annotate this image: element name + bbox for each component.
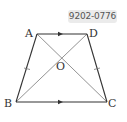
parallel-arrow-icon-ad xyxy=(58,32,63,36)
point-label-b: B xyxy=(4,97,12,110)
point-label-a: A xyxy=(24,27,34,40)
trapezoid-diagram: A D O B C xyxy=(0,0,127,122)
point-label-o: O xyxy=(56,60,65,73)
point-label-c: C xyxy=(108,97,116,110)
point-label-d: D xyxy=(89,27,98,40)
parallel-arrow-icon-bc xyxy=(58,100,63,104)
